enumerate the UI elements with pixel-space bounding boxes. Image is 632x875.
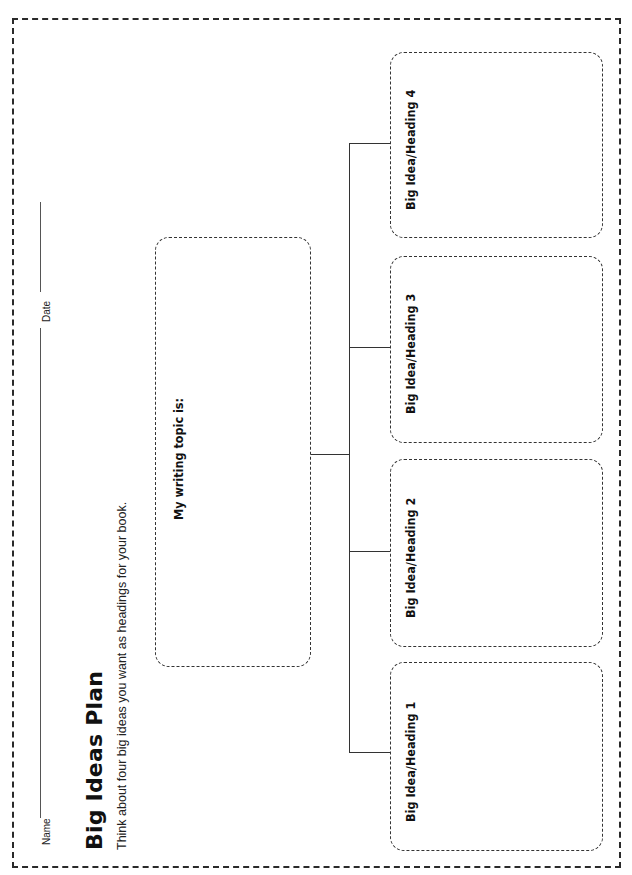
big-idea-label-2: Big Idea/Heading 2 bbox=[403, 498, 418, 618]
big-idea-label-3: Big Idea/Heading 3 bbox=[403, 294, 418, 414]
big-idea-box-1[interactable] bbox=[390, 662, 603, 851]
page-title: Big Ideas Plan bbox=[82, 671, 107, 850]
connector-branch-1 bbox=[349, 752, 390, 753]
connector-branch-4 bbox=[349, 143, 390, 144]
connector-spine bbox=[349, 143, 350, 753]
connector-branch-2 bbox=[349, 551, 390, 552]
date-input-line[interactable] bbox=[40, 202, 41, 292]
name-label: Name bbox=[41, 818, 52, 845]
big-idea-label-4: Big Idea/Heading 4 bbox=[403, 90, 418, 210]
connector-branch-3 bbox=[349, 347, 390, 348]
big-idea-box-4[interactable] bbox=[390, 52, 603, 238]
big-idea-box-2[interactable] bbox=[390, 459, 603, 647]
connector-topic-stem bbox=[311, 454, 350, 455]
big-idea-label-1: Big Idea/Heading 1 bbox=[403, 702, 418, 822]
writing-topic-label: My writing topic is: bbox=[171, 398, 186, 520]
page-subtitle: Think about four big ideas you want as h… bbox=[115, 502, 129, 850]
big-idea-box-3[interactable] bbox=[390, 256, 603, 443]
date-label: Date bbox=[41, 301, 52, 322]
name-input-line[interactable] bbox=[40, 328, 41, 818]
